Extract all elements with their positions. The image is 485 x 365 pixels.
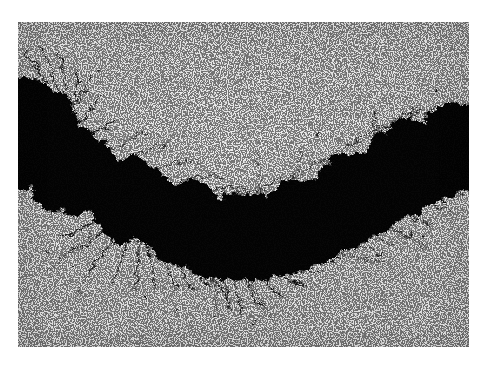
artwork-title: Untitled ink-blot chain (0, 21, 1, 22)
paper-speckle (18, 22, 469, 347)
artwork-description: A horizontal chain of large irregular bl… (0, 16, 1, 17)
ink-blot-chain (18, 22, 469, 347)
artwork-frame: Untitled ink-blot chain A horizontal cha… (0, 0, 485, 365)
paper-sheet (18, 22, 469, 347)
